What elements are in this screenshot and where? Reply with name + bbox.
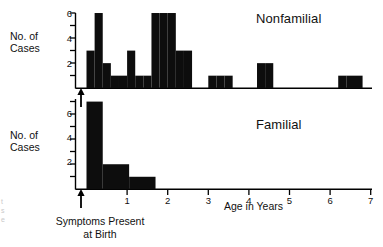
x-tick-label-5: 5	[283, 195, 297, 206]
histogram-bar	[129, 177, 155, 190]
x-tick-label-2: 2	[161, 195, 175, 206]
bottom-birth-arrow	[77, 189, 84, 208]
bottom-panel-plot	[0, 0, 383, 247]
histogram-bar	[87, 102, 103, 190]
x-tick-label-1: 1	[120, 195, 134, 206]
x-axis-title: Age in Years	[224, 200, 283, 212]
birth-arrow-caption: Symptoms Present at Birth	[25, 215, 175, 240]
histogram-figure: t s e No. of Cases Nonfamilial 6 4 2 No.…	[0, 0, 383, 247]
bottom-bars-group	[87, 102, 156, 190]
bottom-y-ticks	[70, 102, 76, 177]
x-tick-label-3: 3	[201, 195, 215, 206]
x-tick-label-7: 7	[364, 195, 378, 206]
histogram-bar	[103, 164, 129, 189]
x-tick-label-6: 6	[323, 195, 337, 206]
